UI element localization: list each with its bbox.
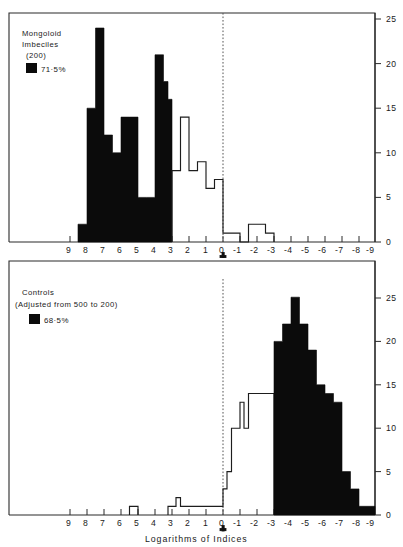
top-x-label-n2: -2	[250, 245, 258, 255]
top-x-label-9: 9	[66, 245, 71, 255]
bottom-legend-percent: 68·5%	[44, 316, 69, 325]
top-legend-line2: Imbeciles	[22, 40, 59, 49]
bottom-histogram-filled	[274, 297, 375, 515]
bottom-y-tick-label-10: 10	[386, 423, 396, 433]
top-panel-frame	[9, 13, 375, 242]
bottom-x-label-n1: -1	[233, 518, 241, 528]
top-x-label-n4: -4	[284, 245, 292, 255]
bottom-x-label-n5: -5	[301, 518, 309, 528]
top-y-tick-label-15: 15	[386, 103, 396, 113]
top-x-label-5: 5	[134, 245, 139, 255]
bottom-x-label-n3: -3	[267, 518, 275, 528]
bottom-x-label-n2: -2	[250, 518, 258, 528]
bottom-x-label-n6: -6	[318, 518, 326, 528]
top-panel-chart: 0 5 10 15 20 25	[0, 0, 403, 258]
figure-container: 0 5 10 15 20 25	[0, 0, 403, 547]
top-x-label-n1: -1	[233, 245, 241, 255]
bottom-x-label-3: 3	[168, 518, 173, 528]
top-x-label-6: 6	[117, 245, 122, 255]
top-x-label-7: 7	[100, 245, 105, 255]
bottom-y-ticks: 0 5 10 15 20 25	[375, 293, 396, 520]
bottom-x-label-n9: -9	[366, 518, 374, 528]
top-y-ticks: 0 5 10 15 20 25	[375, 14, 396, 247]
bottom-x-label-1: 1	[203, 518, 208, 528]
top-y-tick-label-0: 0	[386, 237, 391, 247]
bottom-y-tick-label-0: 0	[386, 510, 391, 520]
top-legend-line1: Mongoloid	[22, 29, 62, 38]
top-x-label-n6: -6	[318, 245, 326, 255]
bottom-x-label-2: 2	[185, 518, 190, 528]
top-y-tick-label-20: 20	[386, 59, 396, 69]
bottom-x-tick-labels: 9 8 7 6 5 4 3 2 1 0 -1 -2 -3 -4 -5 -6 -7…	[66, 518, 374, 528]
top-y-tick-label-10: 10	[386, 148, 396, 158]
bottom-panel-chart: 0 5 10 15 20 25	[0, 257, 403, 547]
x-axis-title: Logarithms of Indices	[145, 534, 248, 544]
top-x-label-n9: -9	[366, 245, 374, 255]
top-x-label-n3: -3	[267, 245, 275, 255]
bottom-x-label-8: 8	[83, 518, 88, 528]
bottom-x-label-4: 4	[151, 518, 156, 528]
bottom-panel-legend: Controls (Adjusted from 500 to 200) 68·5…	[15, 288, 118, 325]
bottom-x-label-9: 9	[66, 518, 71, 528]
bottom-x-label-5: 5	[134, 518, 139, 528]
top-x-label-1: 1	[203, 245, 208, 255]
top-panel-legend: Mongoloid Imbeciles (200) 71·5%	[22, 29, 66, 74]
bottom-x-label-n7: -7	[335, 518, 343, 528]
top-y-tick-label-25: 25	[386, 14, 396, 24]
top-legend-percent: 71·5%	[41, 65, 66, 74]
bottom-x-label-7: 7	[100, 518, 105, 528]
bottom-y-tick-label-15: 15	[386, 380, 396, 390]
top-x-label-n7: -7	[335, 245, 343, 255]
top-legend-swatch-icon	[26, 63, 37, 73]
bottom-legend-line1: Controls	[22, 288, 54, 297]
bottom-legend-swatch-icon	[29, 314, 40, 324]
top-x-label-n5: -5	[301, 245, 309, 255]
top-histogram-filled	[78, 28, 172, 242]
bottom-y-tick-label-5: 5	[386, 467, 391, 477]
bottom-x-label-n8: -8	[352, 518, 360, 528]
top-legend-line3: (200)	[26, 51, 46, 60]
top-x-label-8: 8	[83, 245, 88, 255]
bottom-legend-line2: (Adjusted from 500 to 200)	[15, 300, 118, 309]
bottom-x-label-6: 6	[117, 518, 122, 528]
top-x-label-3: 3	[168, 245, 173, 255]
bottom-histogram-outline	[130, 394, 275, 516]
top-x-label-4: 4	[151, 245, 156, 255]
bottom-y-tick-label-20: 20	[386, 336, 396, 346]
bottom-x-label-n4: -4	[284, 518, 292, 528]
top-x-label-n8: -8	[352, 245, 360, 255]
top-y-tick-label-5: 5	[386, 192, 391, 202]
bottom-y-tick-label-25: 25	[386, 293, 396, 303]
top-x-tick-labels: 9 8 7 6 5 4 3 2 1 0 -1 -2 -3 -4 -5 -6 -7…	[66, 245, 374, 255]
top-x-label-2: 2	[185, 245, 190, 255]
